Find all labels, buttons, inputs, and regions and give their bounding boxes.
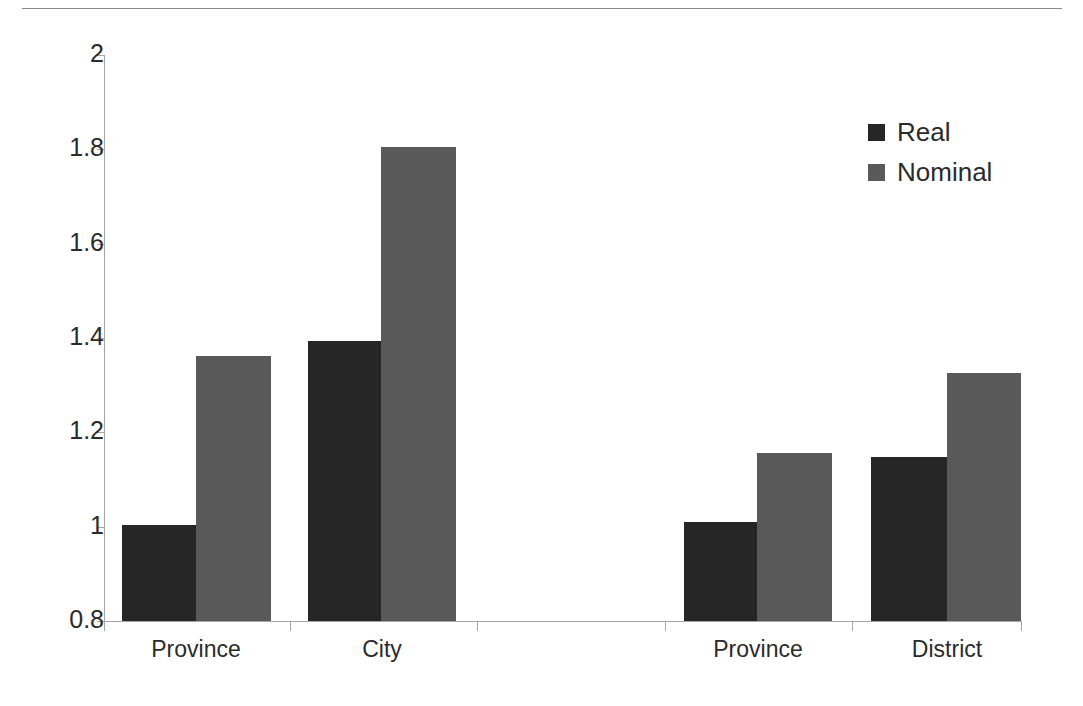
bar-nominal-province-2[interactable] [757, 453, 832, 621]
x-axis-label-province-2: Province [713, 637, 802, 662]
y-axis-line [104, 55, 105, 621]
x-tick-mark [290, 621, 291, 631]
legend-swatch-nominal-icon [868, 164, 885, 181]
legend-label-nominal: Nominal [897, 159, 992, 185]
x-tick-mark [1021, 621, 1022, 631]
bar-real-province-2[interactable] [684, 522, 757, 621]
x-tick-mark [477, 621, 478, 631]
y-tick-label: 1.2 [44, 418, 104, 443]
legend-swatch-real-icon [868, 124, 885, 141]
y-tick-label: 1.4 [44, 324, 104, 349]
x-tick-mark [665, 621, 666, 631]
legend-item-nominal[interactable]: Nominal [868, 152, 992, 192]
x-tick-mark [104, 621, 105, 631]
bar-real-province-1[interactable] [122, 525, 196, 621]
x-axis-line [104, 621, 1021, 622]
bar-real-city[interactable] [308, 341, 381, 621]
x-tick-mark [852, 621, 853, 631]
x-axis-label-province-1: Province [151, 637, 240, 662]
bar-nominal-province-1[interactable] [196, 356, 271, 621]
chart-legend: Real Nominal [868, 112, 992, 192]
bar-real-district[interactable] [871, 457, 947, 621]
y-tick-label: 2 [44, 41, 104, 66]
bar-chart: 2 1.8 1.6 1.4 1.2 1 0.8 [0, 0, 1083, 706]
y-tick-label: 1.6 [44, 230, 104, 255]
chart-page: 2 1.8 1.6 1.4 1.2 1 0.8 [0, 0, 1083, 706]
y-tick-label: 0.8 [44, 607, 104, 632]
legend-item-real[interactable]: Real [868, 112, 992, 152]
bar-nominal-district[interactable] [947, 373, 1021, 621]
legend-label-real: Real [897, 119, 950, 145]
x-axis-label-district: District [912, 637, 982, 662]
y-tick-label: 1.8 [44, 135, 104, 160]
bar-nominal-city[interactable] [381, 147, 456, 621]
y-tick-label: 1 [44, 513, 104, 538]
x-axis-label-city: City [362, 637, 402, 662]
